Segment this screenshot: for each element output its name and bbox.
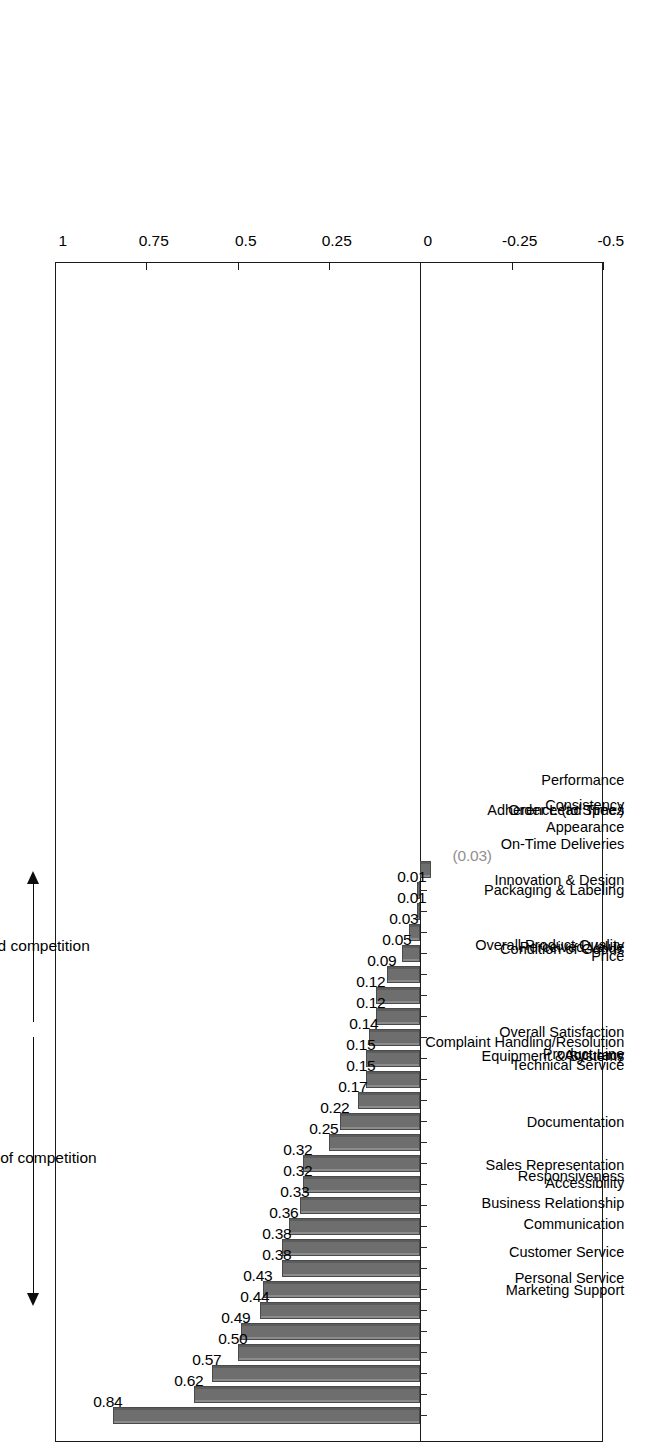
- category-label: Price: [591, 949, 624, 964]
- bar: [358, 1092, 420, 1109]
- category-label: Performance: [541, 773, 624, 788]
- bar: [329, 1134, 420, 1151]
- bar: [303, 1155, 420, 1172]
- bar: [238, 1344, 421, 1361]
- bar-value-label: 0.25: [309, 1121, 338, 1137]
- ahead-of-competition-arrow-head: [27, 1293, 39, 1306]
- category-label: On-Time Deliveries: [501, 837, 625, 852]
- bar: [376, 1008, 420, 1025]
- bar: [387, 966, 420, 983]
- value-axis-tick-label: -0.5: [597, 233, 624, 249]
- bar: [260, 1302, 421, 1319]
- bar-value-label: 0.01: [397, 869, 426, 885]
- bar-slot: [55, 1405, 603, 1426]
- bar-value-label: 0.38: [262, 1226, 291, 1242]
- bar-slot: [55, 1216, 603, 1237]
- bar-value-label: 0.44: [240, 1289, 269, 1305]
- bar: [366, 1071, 421, 1088]
- value-axis-tick-label: 0.5: [235, 233, 257, 249]
- bar: [241, 1323, 420, 1340]
- bar-value-label: 0.03: [389, 911, 418, 927]
- bar-slot: [55, 964, 603, 985]
- category-label: Innovation & Design: [494, 873, 624, 888]
- bar: [402, 945, 420, 962]
- bar-value-label: 0.43: [243, 1268, 272, 1284]
- bar-value-label: 0.50: [218, 1331, 247, 1347]
- value-axis-tick-label: -0.25: [502, 233, 537, 249]
- category-label: Personal Service: [515, 1271, 625, 1286]
- bar-value-label: 0.36: [269, 1205, 298, 1221]
- bar: [300, 1197, 421, 1214]
- category-label: Overall Satisfaction: [499, 1025, 624, 1040]
- value-axis-tick-label: 0: [424, 233, 433, 249]
- bar-value-label: 0.15: [346, 1058, 375, 1074]
- value-axis-tick-label: 0.25: [322, 233, 352, 249]
- bar-value-label: 0.49: [221, 1310, 250, 1326]
- bar-value-label: 0.12: [357, 995, 386, 1011]
- bar: [113, 1407, 420, 1424]
- bar: [282, 1260, 421, 1277]
- category-label: Appearance: [546, 820, 624, 835]
- value-axis-tick-label: 0.75: [139, 233, 169, 249]
- bar: [289, 1218, 421, 1235]
- behind-competition-label: behind competition: [0, 937, 90, 953]
- bar-value-label: 0.33: [280, 1184, 309, 1200]
- value-axis-tick: [603, 262, 604, 270]
- bar-slot: [55, 1342, 603, 1363]
- bar-value-label: 0.17: [338, 1079, 367, 1095]
- category-label: Documentation: [527, 1115, 625, 1130]
- bar-value-label: 0.84: [94, 1394, 123, 1410]
- bar-value-label: 0.12: [357, 974, 386, 990]
- bar-value-label: 0.32: [284, 1142, 313, 1158]
- category-label: Communication: [524, 1217, 625, 1232]
- bar-value-label: 0.62: [174, 1373, 203, 1389]
- bar-slot: [55, 1321, 603, 1342]
- bar-value-label: 0.09: [368, 953, 397, 969]
- category-label: Consistency: [545, 798, 624, 813]
- category-label: Accuracy: [565, 1048, 625, 1063]
- bar-value-label: 0.15: [346, 1037, 375, 1053]
- behind-competition-arrow-head: [27, 871, 39, 884]
- bar: [369, 1029, 420, 1046]
- bar-slot: [55, 1384, 603, 1405]
- bar: [303, 1176, 420, 1193]
- bar: [282, 1239, 421, 1256]
- bar-value-label: (0.03): [453, 848, 492, 864]
- ahead-of-competition-label: ahead of competition: [0, 1149, 97, 1165]
- bar-slot: [55, 985, 603, 1006]
- bar-value-label: 0.32: [284, 1163, 313, 1179]
- bar-slot: [55, 901, 603, 922]
- bar-value-label: 0.01: [397, 890, 426, 906]
- bar-value-label: 0.57: [192, 1352, 221, 1368]
- bar-value-label: 0.05: [382, 932, 411, 948]
- bar: [212, 1365, 420, 1382]
- bar-value-label: 0.38: [262, 1247, 291, 1263]
- category-label: Accessibility: [545, 1176, 624, 1191]
- chart-canvas: -0.5-0.2500.250.50.751 0.840.620.570.500…: [0, 0, 658, 1450]
- category-label: Customer Service: [509, 1245, 624, 1260]
- bar-value-label: 0.14: [349, 1016, 378, 1032]
- bar: [340, 1113, 420, 1130]
- bar-slot: [55, 1363, 603, 1384]
- value-axis-tick-label: 1: [58, 233, 67, 249]
- bar-slot: [55, 1300, 603, 1321]
- bar: [194, 1386, 421, 1403]
- bar-value-label: 0.22: [320, 1100, 349, 1116]
- category-label: Business Relationship: [482, 1196, 625, 1211]
- bar: [263, 1281, 420, 1298]
